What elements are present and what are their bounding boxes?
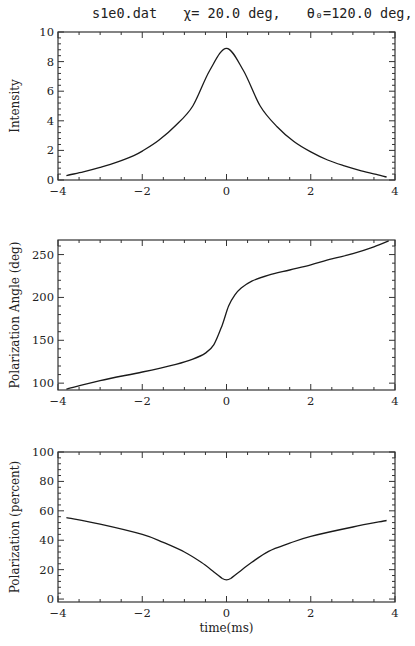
- plot-frame: [58, 32, 395, 180]
- x-tick-label: −2: [134, 394, 151, 408]
- polarization-angle-plot: −4−2024100150200250Polarization Angle (d…: [8, 240, 399, 408]
- y-tick-label: 0: [47, 592, 54, 606]
- y-axis-label: Polarization (percent): [8, 461, 22, 594]
- x-tick-label: −2: [134, 184, 151, 198]
- y-tick-label: 40: [39, 533, 54, 547]
- y-tick-label: 100: [32, 376, 54, 390]
- y-tick-label: 10: [39, 25, 54, 39]
- figure: −4−20240246810Intensity −4−2024100150200…: [0, 0, 415, 646]
- plot-frame: [58, 240, 395, 390]
- y-axis-label: Polarization Angle (deg): [8, 242, 22, 389]
- x-tick-label: 4: [391, 184, 398, 198]
- y-tick-label: 6: [47, 84, 54, 98]
- y-tick-label: 200: [32, 290, 54, 304]
- x-tick-label: 0: [223, 394, 230, 408]
- x-tick-label: 0: [223, 606, 230, 620]
- y-tick-label: 0: [47, 173, 54, 187]
- y-tick-label: 100: [32, 445, 54, 459]
- y-tick-label: 150: [32, 333, 54, 347]
- x-tick-label: 2: [307, 394, 314, 408]
- x-tick-label: −4: [50, 606, 67, 620]
- x-tick-label: −4: [50, 394, 67, 408]
- y-tick-label: 250: [32, 248, 54, 262]
- y-tick-label: 2: [47, 143, 54, 157]
- y-tick-label: 4: [47, 114, 54, 128]
- x-tick-label: 0: [223, 184, 230, 198]
- y-tick-label: 60: [39, 504, 54, 518]
- y-tick-label: 20: [39, 563, 54, 577]
- data-line: [66, 241, 388, 389]
- x-tick-label: 2: [307, 184, 314, 198]
- data-line: [66, 48, 386, 177]
- x-tick-label: −2: [134, 606, 151, 620]
- x-tick-label: 2: [307, 606, 314, 620]
- y-tick-label: 8: [47, 55, 54, 69]
- y-axis-label: Intensity: [8, 79, 22, 133]
- y-tick-label: 80: [39, 474, 54, 488]
- x-tick-label: 4: [391, 394, 398, 408]
- intensity-plot: −4−20240246810Intensity: [8, 25, 399, 198]
- x-tick-label: 4: [391, 606, 398, 620]
- x-axis-label: time(ms): [199, 621, 253, 635]
- data-line: [66, 518, 386, 580]
- polarization-percent-plot: −4−2024020406080100Polarization (percent…: [8, 445, 399, 635]
